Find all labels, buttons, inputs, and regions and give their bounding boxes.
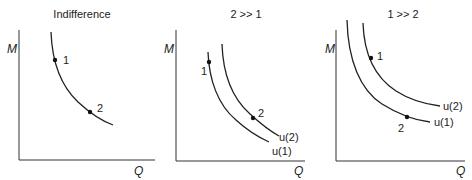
point-1-label: 1 [63, 54, 69, 66]
point-2-label: 2 [97, 102, 103, 114]
panel-title: 2 >> 1 [230, 8, 261, 20]
x-axis-label: Q [134, 164, 143, 178]
panel-2-preferred: 2 >> 1 M Q 1 2 u(2) u(1) [164, 8, 305, 178]
point-2 [251, 116, 255, 120]
x-axis-label: Q [456, 164, 465, 178]
indifference-diagrams: Indifference M Q 1 2 2 >> 1 M Q 1 2 u(2)… [0, 0, 472, 180]
y-axis-label: M [7, 42, 17, 56]
point-1 [53, 58, 57, 62]
point-2 [88, 110, 92, 114]
curve-u2-label: u(2) [443, 100, 463, 112]
curve-u1 [347, 20, 430, 122]
curve-u2 [222, 44, 279, 136]
indifference-curve [51, 32, 113, 125]
panel-1-preferred: 1 >> 2 M Q 1 2 u(2) u(1) [325, 8, 465, 178]
y-axis-label: M [164, 42, 174, 56]
curve-u1 [208, 52, 269, 142]
point-1-label: 1 [377, 50, 383, 62]
panel-title: Indifference [53, 8, 110, 20]
point-1 [369, 56, 373, 60]
curve-u2-label: u(2) [279, 131, 299, 143]
x-axis-label: Q [294, 164, 303, 178]
curve-u1-label: u(1) [272, 145, 292, 157]
axes [336, 30, 465, 161]
y-axis-label: M [325, 42, 335, 56]
panel-title: 1 >> 2 [387, 8, 418, 20]
axes [19, 30, 155, 160]
point-2-label: 2 [258, 107, 264, 119]
curve-u1-label: u(1) [434, 116, 454, 128]
curve-u2 [363, 23, 440, 106]
point-2 [405, 115, 409, 119]
panel-indifference: Indifference M Q 1 2 [7, 8, 155, 178]
point-1 [207, 60, 211, 64]
point-2-label: 2 [398, 122, 404, 134]
point-1-label: 1 [201, 65, 207, 77]
